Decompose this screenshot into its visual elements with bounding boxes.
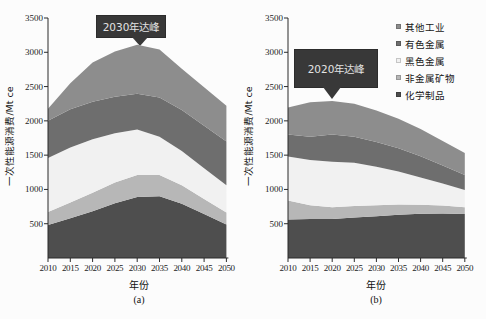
y-tick-label-a: 1500 [17, 150, 43, 160]
y-tick-label-b: 500 [257, 219, 283, 229]
y-tick-label-a: 1000 [17, 184, 43, 194]
y-axis-title-b: 一次性能源消费/Mt ce [241, 61, 255, 211]
stacked-area-chart-a [40, 12, 232, 268]
x-axis-title-b: 年份 [346, 277, 406, 292]
panel-caption-a: (a) [119, 294, 159, 305]
y-tick-label-b: 1000 [257, 184, 283, 194]
panel-caption-b: (b) [356, 294, 396, 305]
x-tick-label-a: 2050 [213, 263, 239, 273]
figure-energy-consumption: 一次性能源消费/Mt ce 年份 (a) 一次性能源消费/Mt ce 年份 (b… [0, 0, 486, 319]
y-tick-label-b: 1500 [257, 150, 283, 160]
stacked-area-chart-b [279, 12, 475, 268]
y-tick-label-a: 500 [17, 219, 43, 229]
y-tick-label-b: 2500 [257, 82, 283, 92]
y-axis-title-a: 一次性能源消费/Mt ce [2, 61, 16, 211]
x-tick-label-b: 2050 [452, 263, 478, 273]
y-tick-label-a: 3500 [17, 13, 43, 23]
area-layer-b-化学制品 [288, 213, 465, 258]
x-axis-title-a: 年份 [109, 277, 169, 292]
y-tick-label-b: 3000 [257, 47, 283, 57]
y-tick-label-b: 3500 [257, 13, 283, 23]
y-tick-label-a: 3000 [17, 47, 43, 57]
y-tick-label-a: 2000 [17, 116, 43, 126]
y-tick-label-a: 2500 [17, 82, 43, 92]
y-tick-label-b: 2000 [257, 116, 283, 126]
